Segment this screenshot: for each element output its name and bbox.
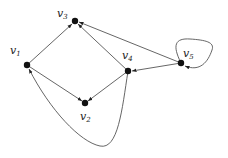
edge-v5-v4: [132, 63, 181, 71]
edge-v4-v1-curve: [29, 69, 128, 146]
label-v5: v5: [183, 47, 194, 61]
node-v2: [82, 100, 88, 106]
edge-v4-v2: [88, 71, 128, 101]
node-v4: [125, 68, 131, 74]
edge-v1-v2: [27, 65, 82, 101]
graph-canvas: v1 v2 v3 v4 v5: [0, 0, 228, 158]
node-v5: [178, 60, 184, 66]
label-v3: v3: [57, 7, 68, 21]
node-v3: [72, 18, 78, 24]
label-v2: v2: [80, 110, 91, 124]
edge-v4-v3: [78, 24, 128, 71]
node-v1: [24, 62, 30, 68]
label-v4: v4: [122, 49, 133, 63]
edge-v1-v3: [27, 24, 72, 65]
label-v1: v1: [10, 44, 21, 58]
